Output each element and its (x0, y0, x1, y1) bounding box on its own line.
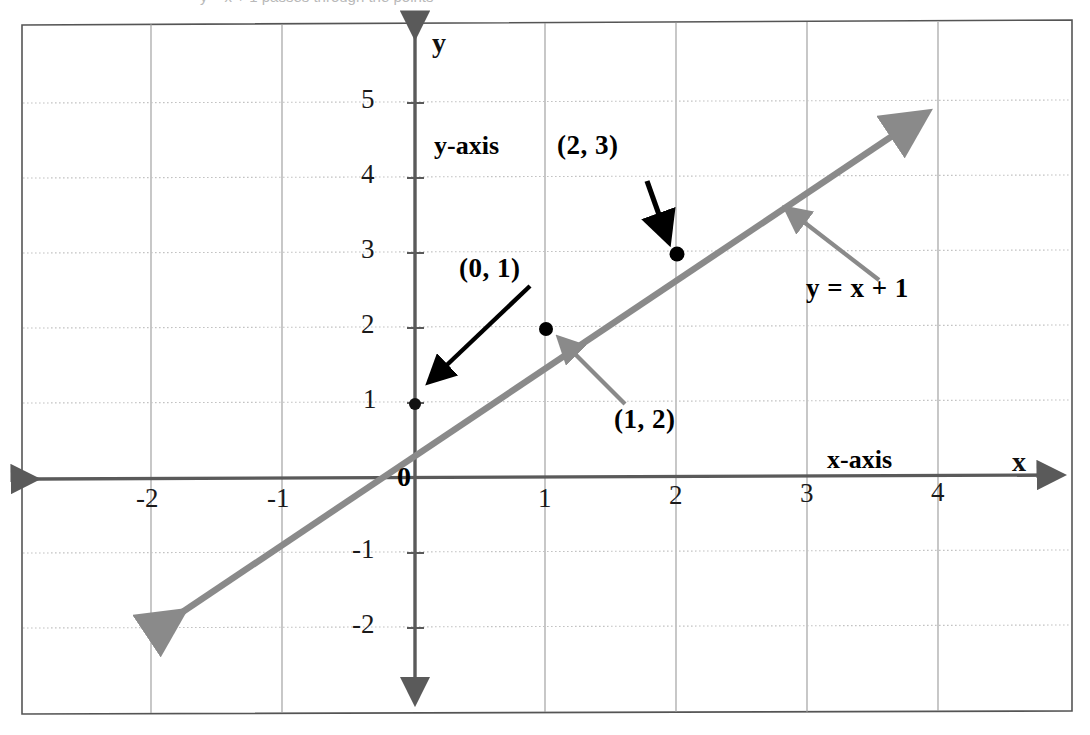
arrow-to-point-1-2 (560, 339, 625, 404)
annotation-point-0-1: (0, 1) (459, 253, 520, 284)
arrow-to-equation-line (787, 209, 879, 280)
x-axis-letter: x (1012, 446, 1026, 478)
graph-canvas (0, 0, 1090, 735)
x-tick-neg1: -1 (267, 483, 290, 514)
arrow-to-point-2-3 (647, 181, 668, 240)
y-tick-neg1: -1 (352, 534, 375, 565)
x-tick-neg2: -2 (136, 483, 159, 514)
x-tick-2: 2 (669, 480, 683, 511)
x-axis-line (36, 475, 1062, 479)
data-point-2-3 (670, 247, 685, 262)
origin-label: 0 (397, 461, 411, 493)
data-point-0-1 (409, 398, 421, 410)
annotation-point-1-2: (1, 2) (614, 404, 675, 435)
x-tick-4: 4 (931, 477, 945, 508)
plot-line-y-equals-x-plus-1 (181, 114, 925, 613)
data-point-1-2 (539, 322, 553, 336)
y-tick-4: 4 (361, 159, 375, 190)
y-axis-letter: y (432, 27, 446, 59)
x-axis-name-label: x-axis (827, 445, 892, 475)
y-tick-1: 1 (363, 384, 377, 415)
y-axis-name-label: y-axis (434, 131, 499, 161)
y-tick-neg2: -2 (352, 609, 375, 640)
annotation-equation: y = x + 1 (806, 273, 909, 304)
data-points (409, 247, 685, 411)
graph-figure: y = x + 1 passes through the points (0, 0, 1090, 735)
y-tick-5: 5 (361, 84, 375, 115)
annotation-point-2-3: (2, 3) (557, 130, 618, 161)
y-tick-3: 3 (361, 234, 375, 265)
x-tick-3: 3 (800, 478, 814, 509)
y-tick-2: 2 (361, 309, 375, 340)
arrow-to-point-0-1 (430, 286, 530, 381)
x-tick-1: 1 (538, 483, 552, 514)
